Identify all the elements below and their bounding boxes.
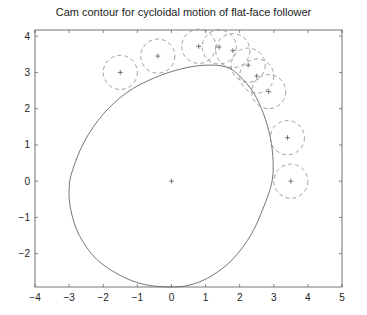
circle-center-marker xyxy=(230,48,235,53)
x-tick-label: 3 xyxy=(271,292,277,303)
cam-center-marker xyxy=(169,179,174,184)
y-tick-label: 0 xyxy=(24,176,30,187)
circle-center-marker xyxy=(254,74,259,79)
y-tick-label: 2 xyxy=(24,103,30,114)
circle-center-marker xyxy=(155,54,160,59)
circle-center-marker xyxy=(217,45,222,50)
x-tick-label: −3 xyxy=(63,292,75,303)
plot-area: −4−3−2−1012345−2−101234 xyxy=(0,0,367,315)
x-tick-label: 2 xyxy=(237,292,243,303)
y-tick-label: −1 xyxy=(19,212,31,223)
y-tick-label: −2 xyxy=(19,248,31,259)
axes-box xyxy=(35,30,342,287)
x-tick-label: −1 xyxy=(132,292,144,303)
x-tick-label: 1 xyxy=(203,292,209,303)
cam-contour-line xyxy=(69,65,273,287)
x-tick-label: −4 xyxy=(29,292,41,303)
circle-center-marker xyxy=(288,179,293,184)
circle-center-marker xyxy=(118,70,123,75)
circle-center-marker xyxy=(285,135,290,140)
circle-center-marker xyxy=(246,63,251,68)
y-tick-label: 4 xyxy=(24,31,30,42)
circle-center-marker xyxy=(196,44,201,49)
y-tick-label: 3 xyxy=(24,67,30,78)
y-tick-label: 1 xyxy=(24,139,30,150)
x-tick-label: 4 xyxy=(305,292,311,303)
x-tick-label: 0 xyxy=(169,292,175,303)
x-tick-label: −2 xyxy=(98,292,110,303)
x-tick-label: 5 xyxy=(339,292,345,303)
